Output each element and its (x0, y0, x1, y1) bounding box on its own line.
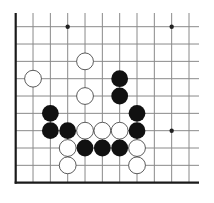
black-stone[interactable] (129, 122, 146, 139)
star-point (169, 128, 173, 132)
white-stone[interactable] (59, 140, 76, 157)
white-stone[interactable] (77, 88, 94, 105)
black-stone[interactable] (129, 105, 146, 122)
white-stone[interactable] (129, 157, 146, 174)
black-stone[interactable] (111, 88, 128, 105)
white-stone[interactable] (94, 122, 111, 139)
white-stone[interactable] (111, 122, 128, 139)
black-stone[interactable] (42, 105, 59, 122)
white-stone[interactable] (77, 53, 94, 70)
black-stone[interactable] (59, 122, 76, 139)
black-stone[interactable] (111, 70, 128, 87)
black-stone[interactable] (111, 140, 128, 157)
star-point (65, 25, 69, 29)
black-stone[interactable] (42, 122, 59, 139)
black-stone[interactable] (94, 140, 111, 157)
grid-lines (16, 13, 199, 183)
white-stone[interactable] (77, 122, 94, 139)
go-board[interactable] (0, 0, 214, 203)
white-stone[interactable] (129, 140, 146, 157)
white-stone[interactable] (25, 70, 42, 87)
white-stone[interactable] (59, 157, 76, 174)
black-stone[interactable] (77, 140, 94, 157)
star-point (169, 25, 173, 29)
